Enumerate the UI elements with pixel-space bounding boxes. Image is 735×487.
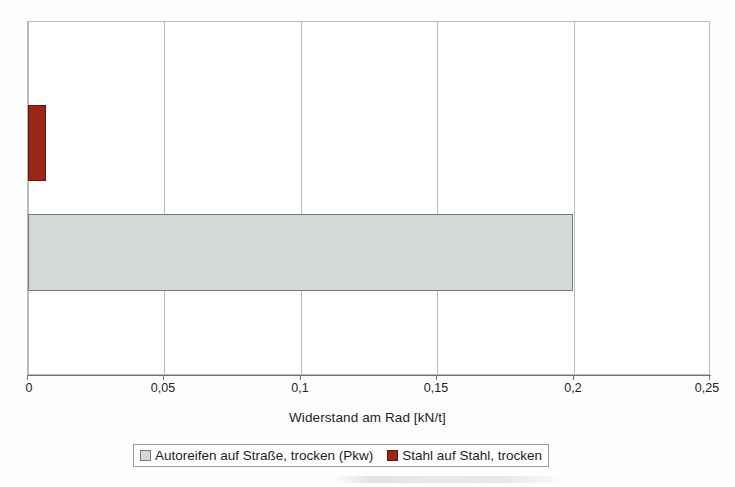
- bar-autoreifen-auf-strasse: [28, 214, 573, 291]
- gridline-0: [28, 22, 29, 374]
- x-tick-mark-4: [573, 375, 574, 380]
- gridline-0-05: [164, 22, 165, 374]
- x-axis-title: Widerstand am Rad [kN/t]: [0, 409, 735, 426]
- legend-entry-stahl: Stahl auf Stahl, trocken: [387, 448, 542, 464]
- scan-artifact: [330, 476, 570, 483]
- x-tick-mark-1: [163, 375, 164, 380]
- x-axis-line: [27, 375, 711, 376]
- x-tick-label-3: 0,15: [424, 381, 448, 396]
- x-tick-label-5: 0,25: [695, 381, 719, 396]
- x-tick-mark-3: [436, 375, 437, 380]
- bar-stahl-auf-stahl: [28, 105, 46, 181]
- bar-chart-figure: 0 0,05 0,1 0,15 0,2 0,25 Widerstand am R…: [0, 0, 735, 487]
- x-tick-mark-0: [27, 375, 28, 380]
- legend-entry-autoreifen: Autoreifen auf Straße, trocken (Pkw): [140, 448, 373, 464]
- x-tick-mark-2: [300, 375, 301, 380]
- x-tick-label-0: 0: [26, 381, 33, 396]
- gridline-0-1: [301, 22, 302, 374]
- x-tick-mark-5: [709, 375, 710, 380]
- gridline-0-15: [437, 22, 438, 374]
- legend-swatch-icon-autoreifen: [140, 450, 151, 461]
- legend-swatch-icon-stahl: [387, 450, 398, 461]
- legend-label-stahl: Stahl auf Stahl, trocken: [402, 448, 542, 464]
- legend-label-autoreifen: Autoreifen auf Straße, trocken (Pkw): [155, 448, 373, 464]
- x-tick-label-2: 0,1: [291, 381, 308, 396]
- plot-area: [27, 21, 710, 375]
- chart-legend: Autoreifen auf Straße, trocken (Pkw) Sta…: [133, 444, 549, 467]
- gridline-0-25: [709, 22, 710, 374]
- gridline-0-2: [574, 22, 575, 374]
- x-tick-label-4: 0,2: [564, 381, 581, 396]
- x-tick-label-1: 0,05: [151, 381, 175, 396]
